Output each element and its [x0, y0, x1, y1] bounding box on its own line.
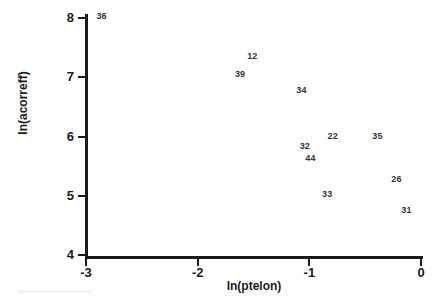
y-axis-tick-mark — [78, 195, 86, 197]
x-axis-tick-label: -3 — [74, 266, 98, 279]
y-axis-tick-mark — [78, 136, 86, 138]
data-point-label: 32 — [300, 141, 310, 150]
y-axis-tick-label-wrap: 5 — [52, 189, 74, 202]
y-axis-tick-label: 6 — [52, 130, 74, 143]
y-axis-tick-label-wrap: 4 — [52, 248, 74, 261]
x-axis-tick-label: -1 — [297, 266, 321, 279]
y-axis-tick-label: 5 — [52, 189, 74, 202]
x-axis-line — [85, 256, 423, 259]
y-axis-tick-mark — [78, 76, 86, 78]
data-point-label: 33 — [322, 189, 332, 198]
data-point-label: 44 — [305, 153, 315, 162]
data-point-label: 39 — [235, 69, 245, 78]
data-point-label: 22 — [328, 131, 338, 140]
data-point-label: 36 — [96, 12, 106, 21]
y-axis-tick-label-wrap: 7 — [52, 70, 74, 83]
y-axis-tick-mark — [78, 254, 86, 256]
y-axis-tick-label: 4 — [52, 248, 74, 261]
y-axis-title: ln(acorreff) — [16, 33, 30, 173]
y-axis-tick-mark — [78, 17, 86, 19]
y-axis-tick-label-wrap: 8 — [52, 11, 74, 24]
data-point-label: 31 — [401, 205, 411, 214]
scan-artifact — [18, 290, 93, 293]
y-axis-tick-label-wrap: 6 — [52, 130, 74, 143]
y-axis-tick-label: 7 — [52, 70, 74, 83]
y-axis-tick-label: 8 — [52, 11, 74, 24]
x-axis-title: ln(ptelon) — [85, 279, 423, 293]
data-point-label: 12 — [247, 51, 257, 60]
x-axis-tick-label: -2 — [186, 266, 210, 279]
x-axis-tick-label: 0 — [409, 266, 433, 279]
data-point-label: 35 — [372, 131, 382, 140]
data-point-label: 34 — [296, 86, 306, 95]
data-point-label: 26 — [391, 175, 401, 184]
scatter-plot-figure: 87654 -3-2-10 3612393422353244263331 ln(… — [0, 0, 440, 299]
